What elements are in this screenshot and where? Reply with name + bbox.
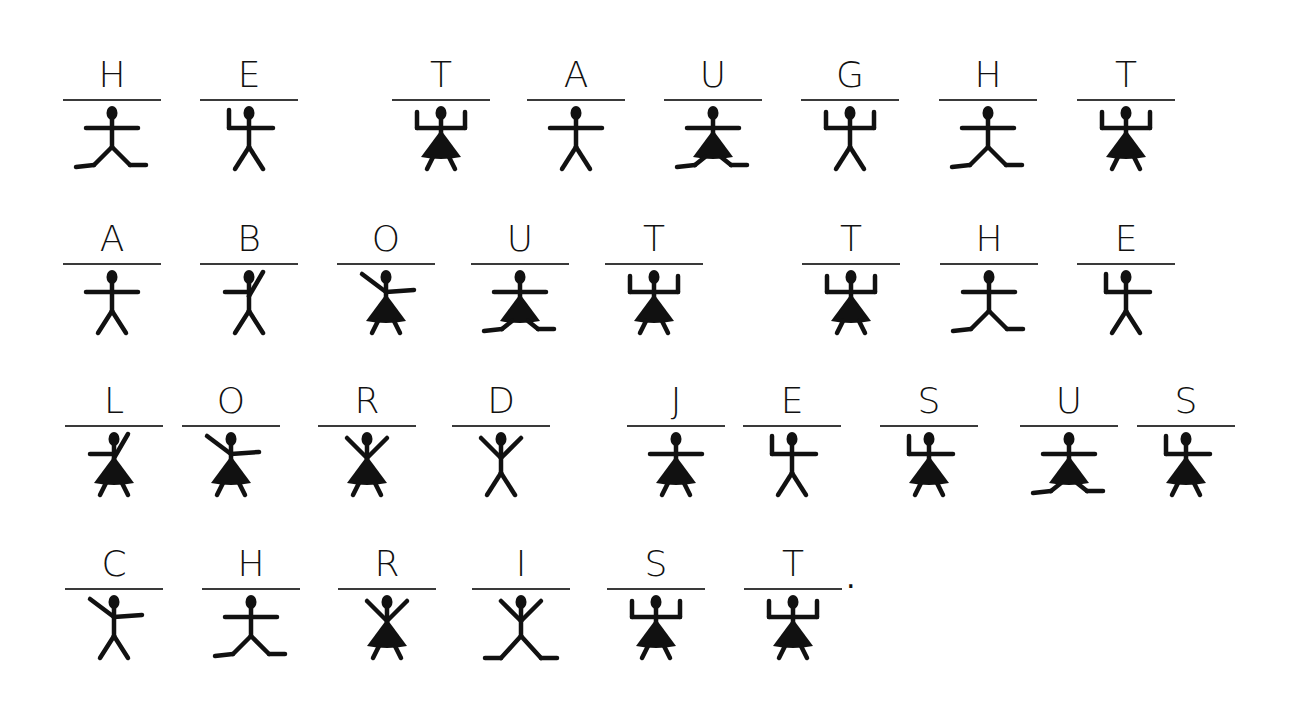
cipher-cell: B (200, 219, 298, 349)
decoded-letter: J (627, 381, 725, 421)
answer-line (452, 425, 550, 427)
cipher-cell: I (472, 544, 570, 674)
dancing-man-icon (65, 592, 163, 672)
answer-line (472, 588, 570, 590)
cipher-cell: U (471, 219, 569, 349)
decoded-letter: G (801, 55, 899, 95)
dancing-man-icon (318, 429, 416, 509)
cipher-cell: U (664, 55, 762, 185)
right-leg-stroke (576, 147, 590, 169)
cipher-cell: T (392, 55, 490, 185)
right-arm-stroke (386, 290, 414, 292)
cipher-cell: S (607, 544, 705, 674)
answer-line (627, 425, 725, 427)
answer-line (607, 588, 705, 590)
answer-line (664, 99, 762, 101)
right-leg-stroke (664, 646, 670, 658)
right-leg-stroke (662, 321, 668, 333)
decoded-letter: L (65, 381, 163, 421)
decoded-letter: B (200, 219, 298, 259)
sentence-period: . (846, 560, 856, 595)
left-foot-stroke (215, 654, 233, 656)
dancing-man-icon (202, 592, 300, 672)
right-leg-stroke (684, 483, 690, 495)
right-leg-stroke (394, 321, 400, 333)
decoded-letter: U (471, 219, 569, 259)
left-leg-stroke (915, 483, 921, 495)
left-leg-stroke (1112, 157, 1118, 169)
answer-line (63, 99, 161, 101)
decoded-letter: T (744, 544, 842, 584)
cipher-cell: H (202, 544, 300, 674)
left-leg-stroke (235, 311, 249, 333)
answer-line (802, 263, 900, 265)
left-leg-stroke (94, 147, 112, 165)
skirt-icon (1049, 456, 1089, 485)
right-leg-stroke (114, 636, 128, 658)
decoded-letter: R (338, 544, 436, 584)
left-leg-stroke (1112, 311, 1126, 333)
right-leg-stroke (249, 147, 263, 169)
cipher-cell: E (1077, 219, 1175, 349)
dancing-man-icon (452, 429, 550, 509)
decoded-letter: O (182, 381, 280, 421)
skirt-icon (367, 619, 407, 648)
right-leg-stroke (937, 483, 943, 495)
skirt-icon (634, 294, 674, 323)
left-leg-stroke (970, 147, 988, 165)
skirt-icon (831, 294, 871, 323)
skirt-icon (211, 456, 251, 485)
skirt-icon (693, 130, 733, 159)
right-leg-stroke (792, 473, 806, 495)
right-leg-stroke (801, 646, 807, 658)
left-leg-stroke (100, 636, 114, 658)
cipher-cell: C (65, 544, 163, 674)
cipher-cell: D (452, 381, 550, 511)
decoded-letter: R (318, 381, 416, 421)
right-leg-stroke (1134, 157, 1140, 169)
right-leg-stroke (122, 483, 128, 495)
right-leg-stroke (112, 147, 130, 165)
right-leg-stroke (521, 636, 541, 658)
decoded-letter: A (63, 219, 161, 259)
cipher-cell: A (63, 219, 161, 349)
decoded-letter: S (880, 381, 978, 421)
dancing-man-icon (744, 592, 842, 672)
right-leg-stroke (375, 483, 381, 495)
left-foot-stroke (76, 165, 94, 167)
dancing-man-icon (743, 429, 841, 509)
right-leg-stroke (449, 157, 455, 169)
dancing-man-icon (1020, 429, 1118, 509)
skirt-icon (909, 456, 949, 485)
dancing-man-icon (605, 267, 703, 347)
dancing-man-icon (880, 429, 978, 509)
decoded-letter: U (1020, 381, 1118, 421)
decoded-letter: D (452, 381, 550, 421)
cipher-cell: H (940, 219, 1038, 349)
left-foot-stroke (484, 329, 502, 331)
skirt-icon (1106, 130, 1146, 159)
answer-line (337, 263, 435, 265)
left-leg-stroke (487, 473, 501, 495)
right-leg-stroke (112, 311, 126, 333)
skirt-icon (656, 456, 696, 485)
cipher-cell: E (743, 381, 841, 511)
decoded-letter: S (607, 544, 705, 584)
cipher-cell: L (65, 381, 163, 511)
dancing-man-icon (337, 267, 435, 347)
decoded-letter: A (527, 55, 625, 95)
decoded-letter: T (392, 55, 490, 95)
left-leg-stroke (100, 483, 106, 495)
dancing-man-icon (940, 267, 1038, 347)
answer-line (605, 263, 703, 265)
dancing-man-icon (1077, 103, 1175, 183)
left-leg-stroke (971, 311, 989, 329)
right-leg-stroke (988, 147, 1006, 165)
dancing-man-icon (65, 429, 163, 509)
cipher-cell: R (318, 381, 416, 511)
decoded-letter: H (202, 544, 300, 584)
decoded-letter: T (1077, 55, 1175, 95)
answer-line (471, 263, 569, 265)
answer-line (801, 99, 899, 101)
cipher-cell: T (1077, 55, 1175, 185)
